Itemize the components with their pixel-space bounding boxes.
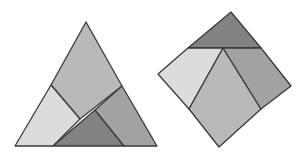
- dissection-figure: [0, 0, 307, 156]
- triangle-figure: [15, 22, 157, 146]
- square-piece-top-triangle: [188, 12, 261, 48]
- square-figure: [158, 12, 291, 147]
